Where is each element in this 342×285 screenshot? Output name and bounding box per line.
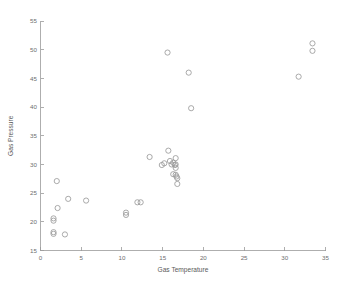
x-tick-label: 30 (281, 254, 288, 261)
data-point (62, 232, 67, 237)
y-tick-label: 15 (30, 247, 37, 254)
data-point (310, 41, 315, 46)
y-tick-label: 50 (30, 46, 37, 53)
plot-canvas: 152025303540455055 05101520253035 Gas Te… (0, 0, 342, 285)
y-tick-label: 45 (30, 75, 37, 82)
data-point (54, 178, 59, 183)
data-point (66, 196, 71, 201)
y-tick-label: 40 (30, 103, 37, 110)
data-points-layer (51, 41, 315, 237)
scatter-plot-figure: 152025303540455055 05101520253035 Gas Te… (0, 0, 342, 285)
data-point (173, 156, 178, 161)
x-tick-label: 35 (322, 254, 329, 261)
x-tick-label: 0 (39, 254, 43, 261)
data-point (186, 70, 191, 75)
data-point (165, 50, 170, 55)
x-tick-label: 5 (79, 254, 83, 261)
x-tick-label: 15 (159, 254, 166, 261)
x-tick-label: 20 (200, 254, 207, 261)
data-point (55, 205, 60, 210)
x-axis-ticks: 05101520253035 (39, 247, 330, 261)
data-point (147, 154, 152, 159)
y-tick-label: 25 (30, 189, 37, 196)
y-axis-ticks: 152025303540455055 (30, 17, 44, 254)
y-tick-label: 20 (30, 218, 37, 225)
data-point (175, 181, 180, 186)
x-axis-title: Gas Temperature (158, 266, 209, 274)
data-point (310, 48, 315, 53)
data-point (189, 106, 194, 111)
x-tick-label: 25 (241, 254, 248, 261)
data-point (296, 74, 301, 79)
y-tick-label: 35 (30, 132, 37, 139)
y-tick-label: 30 (30, 161, 37, 168)
data-point (84, 198, 89, 203)
data-point (138, 200, 143, 205)
data-point (166, 148, 171, 153)
y-tick-label: 55 (30, 17, 37, 24)
y-axis-title: Gas Pressure (7, 115, 14, 156)
x-tick-label: 10 (118, 254, 125, 261)
